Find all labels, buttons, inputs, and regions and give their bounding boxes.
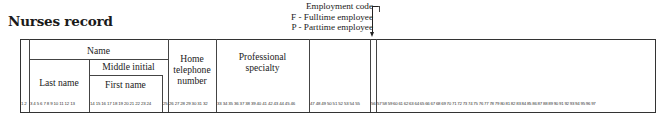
position-numbers-5: 26 27 28 29 30 31 32 <box>169 101 208 106</box>
position-numbers-4: 25 <box>163 101 168 106</box>
header-home-telephone-line2: telephone <box>168 64 216 76</box>
header-home-telephone-line3: number <box>168 75 216 87</box>
position-numbers-2: 3 4 5 6 7 8 9 10 11 12 13 <box>30 101 75 106</box>
position-numbers-7: 47 48 49 50 51 52 53 54 55 <box>310 101 360 106</box>
position-numbers-6: 33 34 35 36 37 38 39 40 41 42 43 44 45 4… <box>217 101 295 106</box>
employment-code-legend: Employment code F - Fulltime employee P … <box>291 1 373 33</box>
header-middle-initial: Middle initial <box>89 61 168 73</box>
legend-bracket-vertical <box>379 6 380 12</box>
legend-arrow-shaft <box>372 6 373 33</box>
legend-arrow-top <box>372 6 378 7</box>
header-last-name: Last name <box>29 77 89 89</box>
page-title: Nurses record <box>8 13 113 29</box>
legend-option-fulltime: F - Fulltime employee <box>291 12 373 23</box>
table-bottom-border <box>20 112 656 113</box>
table-top-border <box>20 39 656 40</box>
legend-option-parttime: P - Parttime employee <box>291 22 373 33</box>
position-numbers-3: 14 15 16 17 18 19 20 21 22 23 24 <box>90 101 151 106</box>
arrow-down-icon <box>370 32 374 37</box>
middle-initial-underline <box>89 75 162 76</box>
header-first-name: First name <box>89 79 162 91</box>
position-numbers-8: 56 <box>371 101 376 106</box>
name-header-underline <box>29 59 168 60</box>
position-numbers-1: 1 2 <box>21 101 27 106</box>
header-name: Name <box>29 45 168 57</box>
header-specialty-line2: specialty <box>216 62 309 74</box>
header-specialty-line1: Professional <box>216 51 309 63</box>
legend-heading: Employment code <box>291 1 373 12</box>
first-name-right <box>162 75 163 112</box>
table-right-border <box>655 39 656 113</box>
header-home-telephone-line1: Home <box>168 53 216 65</box>
position-numbers-9: 57 58 59 60 61 62 63 64 65 66 67 68 69 7… <box>377 101 596 106</box>
